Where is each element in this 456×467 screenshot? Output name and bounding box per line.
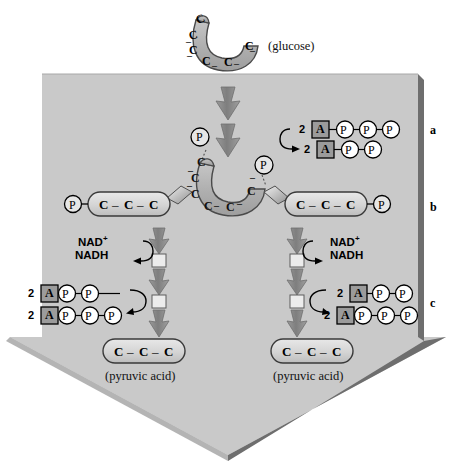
diagram-canvas <box>0 0 456 467</box>
glycolysis-diagram: C C C C C C – – – – – (glucose) a b c 2 … <box>0 0 456 467</box>
adp-adenosine-a: A <box>321 142 330 157</box>
adp-count-c-left: 2 <box>28 287 34 299</box>
atp-count-c-left: 2 <box>28 309 34 321</box>
left-pyruvate-carbon-1: C <box>114 344 123 360</box>
adp-phosphate-c-left-1: P <box>62 287 69 302</box>
atp-adenosine-a: A <box>316 122 325 137</box>
atp-phosphate-c-right-1: P <box>358 309 365 324</box>
atp-phosphate-a-1: P <box>340 123 347 138</box>
atp-phosphate-c-left-3: P <box>108 309 115 324</box>
left-pyruvate-sep-1: – <box>127 344 134 360</box>
left-pyruvate-carbon-3: C <box>164 344 173 360</box>
atp-phosphate-a-3: P <box>386 123 393 138</box>
left-triose-sep-1: – <box>112 197 119 213</box>
atp-count-c-right: 2 <box>324 309 330 321</box>
adp-phosphate-c-right-2: P <box>399 287 406 302</box>
left-pyruvate-sep-2: – <box>152 344 159 360</box>
adp-phosphate-c-right-1: P <box>376 287 383 302</box>
adp-phosphate-a-2: P <box>368 143 375 158</box>
nad-oxidized-right-text: NAD <box>330 236 355 248</box>
right-triose-sep-2: – <box>334 197 341 213</box>
section-label-b: b <box>430 200 437 215</box>
right-pyruvate-sep-1: – <box>295 344 302 360</box>
atp-adenosine-c-right: A <box>341 308 350 323</box>
nad-charge-left: + <box>103 234 108 243</box>
glucose-label: (glucose) <box>268 39 315 54</box>
section-label-a: a <box>430 123 436 138</box>
split-molecule-carbons: C C C C C C – – – – – <box>190 155 276 217</box>
adp-adenosine-c-left: A <box>45 286 54 301</box>
glucose-bond-marks: – – – – – <box>186 20 266 70</box>
atp-phosphate-c-right-2: P <box>381 309 388 324</box>
right-pyruvate-carbon-3: C <box>332 344 341 360</box>
atp-phosphate-a-2: P <box>363 123 370 138</box>
nad-oxidized-left-text: NAD <box>78 236 103 248</box>
left-triose-phosphate-label: P <box>69 198 76 213</box>
nad-reduced-right: NADH <box>330 249 363 261</box>
atp-adenosine-c-left: A <box>45 308 54 323</box>
nad-charge-right: + <box>355 234 360 243</box>
right-pyruvate-caption: (pyruvic acid) <box>273 369 343 384</box>
phosphate-label-upper-left: P <box>196 130 203 145</box>
right-triose-sep-1: – <box>309 197 316 213</box>
section-label-c: c <box>430 296 435 311</box>
atp-count-a: 2 <box>299 123 305 135</box>
left-triose-carbon-2: C <box>124 197 133 213</box>
nad-oxidized-left: NAD+ <box>78 234 108 248</box>
right-triose-phosphate-label: P <box>378 198 385 213</box>
left-triose-carbon-1: C <box>99 197 108 213</box>
atp-phosphate-c-left-1: P <box>62 309 69 324</box>
right-pyruvate-sep-2: – <box>320 344 327 360</box>
atp-phosphate-c-left-2: P <box>85 309 92 324</box>
adp-count-a: 2 <box>304 143 310 155</box>
left-triose-carbon-3: C <box>149 197 158 213</box>
left-triose-sep-2: – <box>137 197 144 213</box>
left-pyruvate-carbon-2: C <box>139 344 148 360</box>
adp-adenosine-c-right: A <box>354 286 363 301</box>
right-triose-carbon-2: C <box>321 197 330 213</box>
adp-phosphate-a-1: P <box>345 143 352 158</box>
atp-phosphate-c-right-3: P <box>404 309 411 324</box>
left-pyruvate-caption: (pyruvic acid) <box>105 369 175 384</box>
right-pyruvate-carbon-2: C <box>307 344 316 360</box>
nad-reduced-left: NADH <box>75 249 108 261</box>
adp-phosphate-c-left-2: P <box>85 287 92 302</box>
right-triose-carbon-1: C <box>296 197 305 213</box>
right-pyruvate-carbon-1: C <box>282 344 291 360</box>
nad-oxidized-right: NAD+ <box>330 234 360 248</box>
right-triose-carbon-3: C <box>346 197 355 213</box>
adp-count-c-right: 2 <box>337 287 343 299</box>
